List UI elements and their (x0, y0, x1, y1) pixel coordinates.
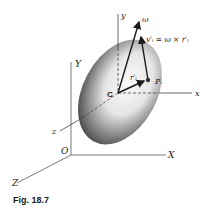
label-origin: O (61, 146, 69, 156)
label-small-y: y (120, 11, 126, 20)
label-big-X: X (167, 150, 175, 160)
label-small-z: z (51, 127, 57, 136)
label-center-C: C (107, 90, 113, 99)
figure-caption: Fig. 18.7 (13, 195, 49, 205)
label-velocity-equation: v′ᵢ = ω × r′ᵢ (146, 35, 189, 44)
label-small-x: x (195, 89, 200, 98)
label-big-Z: Z (11, 178, 19, 188)
rigid-body-diagram: Y X Z O y x z C ω v′ᵢ = ω × r′ᵢ r′ᵢ Pᵢ F… (0, 0, 211, 212)
label-big-Y: Y (75, 59, 82, 69)
label-omega: ω (142, 15, 149, 24)
label-point-pi: Pᵢ (154, 77, 162, 86)
point-pi-marker (146, 78, 150, 82)
label-r-prime: r′ᵢ (130, 73, 137, 82)
